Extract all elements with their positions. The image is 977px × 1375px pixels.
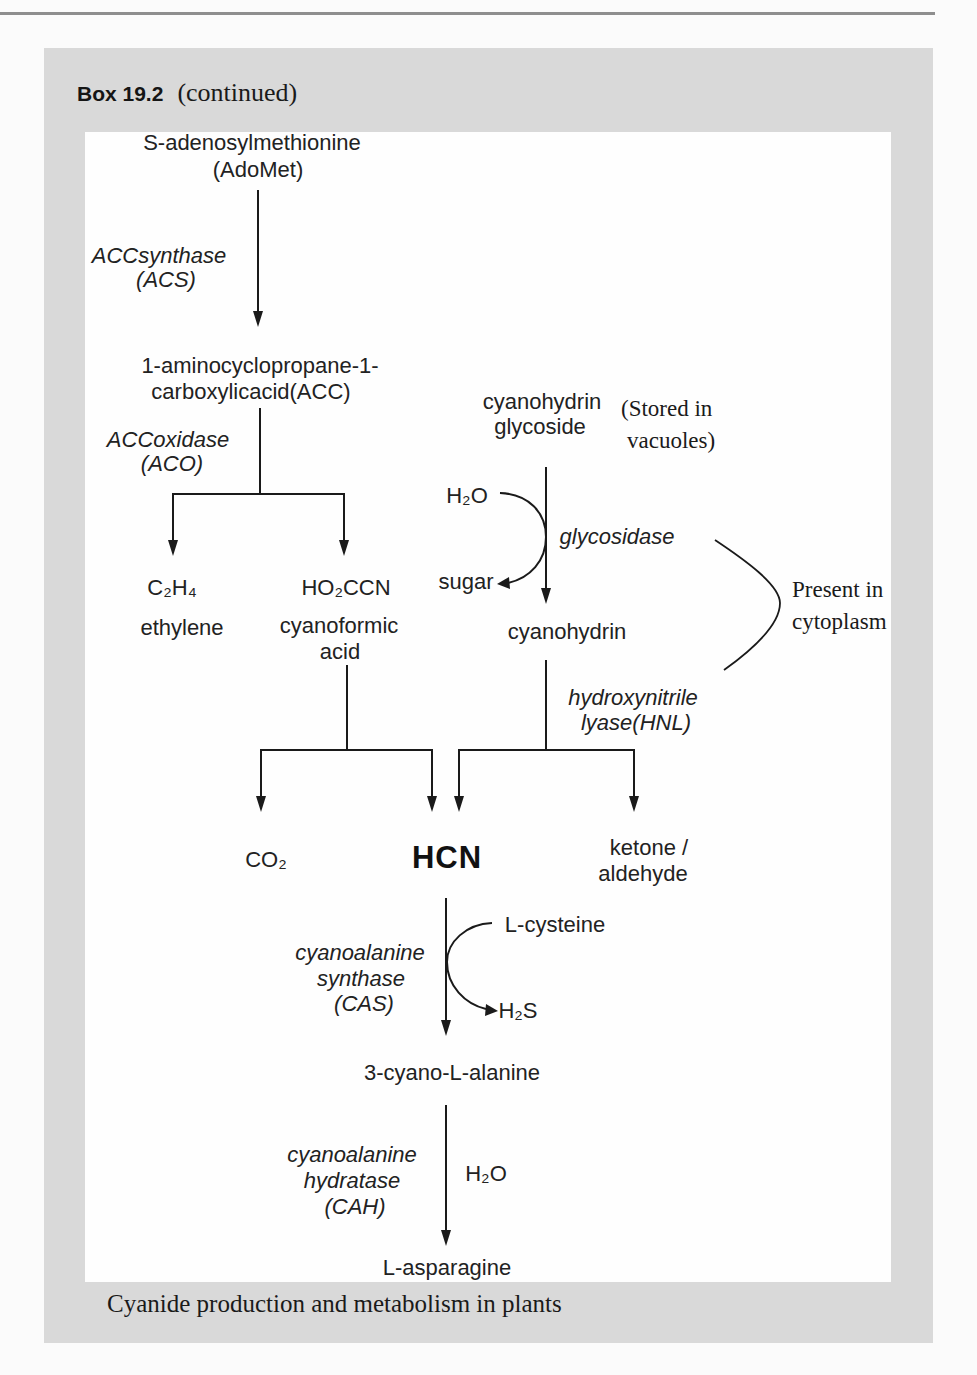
figure-panel [85,132,891,1282]
compound-asparagine: L-asparagine [383,1255,511,1281]
compound-cyanohydrin: cyanohydrin [508,619,627,645]
compound-cyanoformic-line2: acid [320,639,360,665]
compound-glycoside-line2: glycoside [494,414,586,440]
compound-ethylene-formula: C₂H₄ [147,575,196,601]
enzyme-hnl-name: hydroxynitrile [568,685,698,711]
enzyme-cah-line2: hydratase [304,1168,401,1194]
enzyme-aco-abbr: (ACO) [141,451,203,477]
compound-cyanoalanine: 3-cyano-L-alanine [364,1060,540,1086]
figure-caption: Cyanide production and metabolism in pla… [107,1290,562,1318]
annotation-cytoplasm-line1: Present in [792,577,883,603]
compound-ketone-line2: aldehyde [598,861,687,887]
box-header: Box 19.2 (continued) [77,78,297,106]
enzyme-glycosidase: glycosidase [560,524,675,550]
compound-sugar: sugar [438,569,493,595]
compound-water-glycosidase: H₂O [446,483,488,509]
annotation-storage-line2: vacuoles) [627,428,715,454]
compound-acc-line1: 1-aminocyclopropane-1- [141,353,378,379]
compound-l-cysteine: L-cysteine [505,912,605,938]
compound-water-cah: H₂O [465,1161,507,1187]
box-label: Box 19.2 [77,82,163,106]
enzyme-cas-abbr: (CAS) [334,991,394,1017]
enzyme-acs-abbr: (ACS) [136,267,196,293]
enzyme-cas-line1: cyanoalanine [295,940,425,966]
annotation-storage-line1: (Stored in [621,396,712,422]
enzyme-cas-line2: synthase [317,966,405,992]
annotation-cytoplasm-line2: cytoplasm [792,609,887,635]
compound-glycoside-line1: cyanohydrin [483,389,602,415]
enzyme-acs-name: ACCsynthase [92,243,227,269]
compound-acc-line2: carboxylicacid(ACC) [151,379,350,405]
compound-adomet-name: S-adenosylmethionine [143,130,361,156]
compound-ethylene-name: ethylene [140,615,223,641]
enzyme-hnl-abbr: lyase(HNL) [581,710,691,736]
enzyme-aco-name: ACCoxidase [107,427,229,453]
compound-co2: CO₂ [245,847,287,873]
compound-ketone-line1: ketone / [610,835,688,861]
box-continued-label: (continued) [177,78,297,108]
page-header-rule [0,12,935,15]
enzyme-cah-abbr: (CAH) [324,1194,385,1220]
compound-adomet-abbr: (AdoMet) [213,157,303,183]
compound-cyanoformic-formula: HO₂CCN [301,575,390,601]
compound-hcn: HCN [412,841,482,875]
compound-h2s: H₂S [498,998,537,1024]
compound-cyanoformic-line1: cyanoformic [280,613,399,639]
enzyme-cah-line1: cyanoalanine [287,1142,417,1168]
